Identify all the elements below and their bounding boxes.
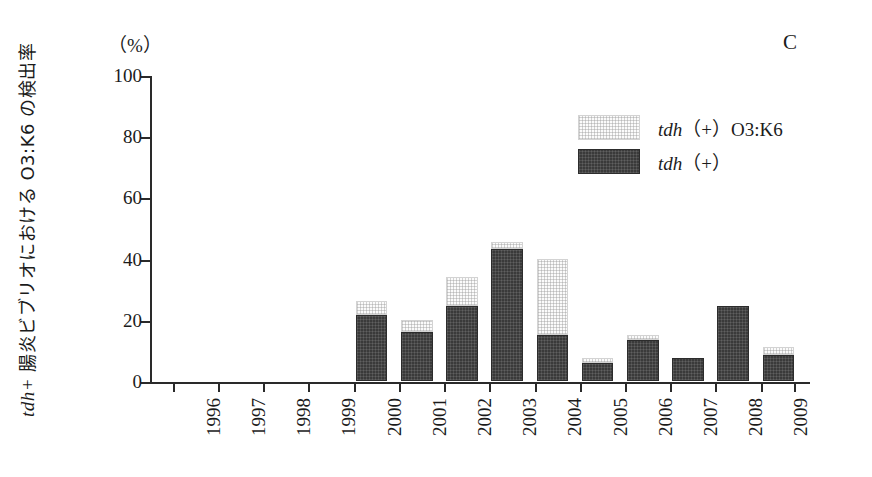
y-axis-title: tdh+ 腸炎ビブリオにおける O3:K6 の検出率 bbox=[13, 20, 43, 440]
x-tick-mark-2007 bbox=[670, 383, 672, 392]
bar-segment-o3k6-2006 bbox=[627, 335, 659, 340]
bar-2007 bbox=[672, 358, 704, 381]
x-tick-label-2006: 2006 bbox=[655, 398, 677, 477]
legend-item-1: tdh（+）O3:K6 bbox=[578, 112, 783, 142]
x-tick-label-2005: 2005 bbox=[610, 398, 632, 477]
x-tick-mark-end bbox=[794, 383, 796, 392]
bar-segment-tdh-positive-2007 bbox=[672, 358, 704, 381]
bar-segment-tdh-positive-2004 bbox=[537, 335, 569, 381]
bar-segment-o3k6-2001 bbox=[401, 320, 433, 332]
bar-2006 bbox=[627, 335, 659, 381]
x-tick-mark-1999 bbox=[308, 383, 310, 392]
x-tick-mark-2009 bbox=[761, 383, 763, 392]
bar-segment-tdh-positive-2009 bbox=[763, 355, 795, 381]
x-tick-mark-2004 bbox=[535, 383, 537, 392]
x-tick-mark-1998 bbox=[263, 383, 265, 392]
legend-label-rest: （+） bbox=[682, 153, 731, 174]
bar-segment-o3k6-2003 bbox=[491, 242, 523, 250]
y-tick-mark bbox=[141, 260, 150, 262]
legend-label-1: tdh（+）O3:K6 bbox=[658, 114, 783, 141]
x-tick-label-1999: 1999 bbox=[338, 398, 360, 477]
y-tick-label: 60 bbox=[123, 187, 142, 209]
x-tick-label-2004: 2004 bbox=[564, 398, 586, 477]
bar-segment-tdh-positive-2003 bbox=[491, 249, 523, 381]
x-tick-label-2007: 2007 bbox=[700, 398, 722, 477]
x-tick-mark-1996 bbox=[173, 383, 175, 392]
bar-2000 bbox=[356, 301, 388, 381]
y-tick-label: 0 bbox=[133, 371, 143, 393]
bar-segment-tdh-positive-2000 bbox=[356, 315, 388, 381]
x-tick-label-2008: 2008 bbox=[745, 398, 767, 477]
bar-2008 bbox=[717, 306, 749, 381]
bar-segment-tdh-positive-2008 bbox=[717, 306, 749, 381]
y-tick-label: 80 bbox=[123, 126, 142, 148]
bar-segment-o3k6-2002 bbox=[446, 277, 478, 306]
y-tick-label: 40 bbox=[123, 249, 142, 271]
y-axis-title-japanese: 腸炎ビブリオにおける O3:K6 の検出率 bbox=[17, 43, 38, 378]
chart-legend: tdh（+）O3:K6tdh（+） bbox=[578, 112, 783, 180]
bar-segment-o3k6-2005 bbox=[582, 358, 614, 363]
bar-2004 bbox=[537, 259, 569, 381]
y-tick-mark bbox=[141, 137, 150, 139]
bar-segment-tdh-positive-2002 bbox=[446, 306, 478, 381]
y-tick-mark bbox=[141, 76, 150, 78]
y-axis-line bbox=[150, 76, 152, 384]
legend-label-italic: tdh bbox=[658, 119, 682, 140]
panel-letter: C bbox=[783, 30, 797, 55]
bar-segment-o3k6-2009 bbox=[763, 347, 795, 355]
legend-swatch-light bbox=[578, 115, 640, 140]
x-tick-label-2000: 2000 bbox=[384, 398, 406, 477]
y-tick-mark bbox=[141, 382, 150, 384]
x-tick-label-2002: 2002 bbox=[474, 398, 496, 477]
x-tick-mark-2002 bbox=[444, 383, 446, 392]
bar-2009 bbox=[763, 347, 795, 381]
x-tick-mark-2005 bbox=[580, 383, 582, 392]
figure-panel-c: tdh+ 腸炎ビブリオにおける O3:K6 の検出率 （%） C 0204060… bbox=[0, 0, 872, 477]
bar-2005 bbox=[582, 358, 614, 381]
x-tick-mark-2001 bbox=[399, 383, 401, 392]
x-tick-label-2001: 2001 bbox=[429, 398, 451, 477]
x-tick-label-2009: 2009 bbox=[790, 398, 812, 477]
bar-segment-tdh-positive-2001 bbox=[401, 332, 433, 381]
bar-segment-tdh-positive-2005 bbox=[582, 363, 614, 381]
x-tick-mark-2003 bbox=[489, 383, 491, 392]
bar-2003 bbox=[491, 242, 523, 381]
legend-label-2: tdh（+） bbox=[658, 148, 731, 175]
legend-label-rest: （+）O3:K6 bbox=[682, 119, 782, 140]
x-tick-label-2003: 2003 bbox=[519, 398, 541, 477]
y-tick-mark bbox=[141, 198, 150, 200]
y-axis-unit-label: （%） bbox=[108, 30, 162, 57]
x-tick-mark-2006 bbox=[625, 383, 627, 392]
x-tick-mark-1997 bbox=[218, 383, 220, 392]
legend-swatch-dark bbox=[578, 149, 640, 174]
bar-segment-o3k6-2004 bbox=[537, 259, 569, 336]
y-tick-label: 100 bbox=[114, 65, 143, 87]
x-tick-mark-2000 bbox=[354, 383, 356, 392]
x-tick-label-1996: 1996 bbox=[203, 398, 225, 477]
y-axis-title-italic: tdh+ bbox=[17, 378, 38, 417]
bar-segment-o3k6-2000 bbox=[356, 301, 388, 315]
bar-2002 bbox=[446, 277, 478, 381]
y-tick-label: 20 bbox=[123, 310, 142, 332]
legend-label-italic: tdh bbox=[658, 153, 682, 174]
x-axis-line bbox=[150, 382, 810, 384]
bar-2001 bbox=[401, 320, 433, 381]
y-tick-mark bbox=[141, 321, 150, 323]
x-tick-label-1997: 1997 bbox=[248, 398, 270, 477]
bar-segment-tdh-positive-2006 bbox=[627, 340, 659, 381]
legend-item-2: tdh（+） bbox=[578, 146, 783, 176]
x-tick-mark-2008 bbox=[715, 383, 717, 392]
x-tick-label-1998: 1998 bbox=[293, 398, 315, 477]
